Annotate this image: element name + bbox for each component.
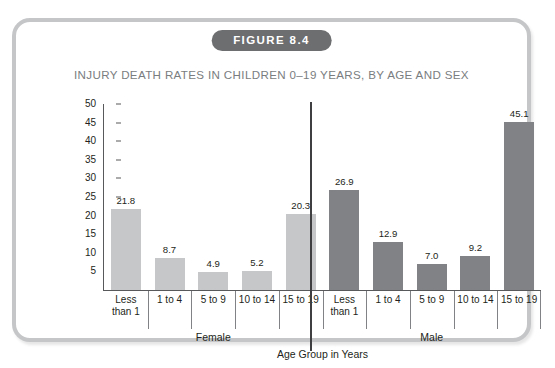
y-tick-label: 15: [70, 229, 96, 239]
bar[interactable]: [504, 122, 534, 290]
bar-value-label: 21.8: [117, 195, 136, 206]
bar-slot: 20.3: [279, 104, 323, 290]
y-tick-label: 25: [70, 192, 96, 202]
bar[interactable]: [155, 258, 185, 290]
category-divider: [497, 291, 498, 329]
bar-slot: 26.9: [323, 104, 367, 290]
category-divider: [454, 291, 455, 329]
group-label-female: Female: [104, 331, 323, 343]
category-label: Lessthan 1: [104, 291, 148, 329]
y-tick-label: 20: [70, 211, 96, 221]
bar[interactable]: [460, 256, 490, 290]
bar-value-label: 12.9: [379, 228, 398, 239]
category-label: 5 to 9: [410, 291, 454, 329]
y-tick-label: 50: [70, 99, 96, 109]
y-tick-label: 45: [70, 118, 96, 128]
category-divider: [191, 291, 192, 329]
bar-value-label: 9.2: [469, 242, 482, 253]
category-label: 15 to 19: [279, 291, 323, 329]
y-tick-label: 35: [70, 155, 96, 165]
bar-value-label: 7.0: [425, 250, 438, 261]
category-label: 15 to 19: [497, 291, 541, 329]
chart-title: INJURY DEATH RATES IN CHILDREN 0–19 YEAR…: [16, 68, 527, 81]
bar-slot: 8.7: [148, 104, 192, 290]
bar[interactable]: [373, 242, 403, 290]
category-label: 10 to 14: [454, 291, 498, 329]
group-label-row: FemaleMale: [104, 329, 541, 349]
figure-number-badge: FIGURE 8.4: [211, 30, 332, 51]
figure-card: FIGURE 8.4 INJURY DEATH RATES IN CHILDRE…: [12, 18, 531, 342]
group-label-male: Male: [323, 331, 542, 343]
y-tick-label: 5: [70, 266, 96, 276]
bar-slot: 7.0: [410, 104, 454, 290]
bar[interactable]: [242, 271, 272, 290]
bar-value-label: 26.9: [335, 176, 354, 187]
bar-slot: 12.9: [366, 104, 410, 290]
category-label: 1 to 4: [366, 291, 410, 329]
category-label: Lessthan 1: [323, 291, 367, 329]
category-divider: [279, 291, 280, 329]
bar-slot: 9.2: [454, 104, 498, 290]
bar-value-label: 8.7: [163, 244, 176, 255]
category-label: 5 to 9: [191, 291, 235, 329]
category-divider: [235, 291, 236, 329]
category-label: 1 to 4: [148, 291, 192, 329]
y-axis-tick-labels: 5045403530252015105: [70, 104, 96, 290]
bar[interactable]: [329, 190, 359, 290]
bar-slot: 5.2: [235, 104, 279, 290]
bar-slot: 45.1: [497, 104, 541, 290]
bar-slot: 21.8: [104, 104, 148, 290]
y-tick-label: 10: [70, 248, 96, 258]
sex-group-divider: [310, 102, 312, 351]
bar-value-label: 5.2: [250, 257, 263, 268]
category-divider: [410, 291, 411, 329]
category-divider: [148, 291, 149, 329]
bar-value-label: 45.1: [510, 108, 529, 119]
category-divider: [366, 291, 367, 329]
y-tick-label: 30: [70, 173, 96, 183]
category-label: 10 to 14: [235, 291, 279, 329]
category-divider: [323, 291, 324, 329]
bar[interactable]: [417, 264, 447, 290]
bar-value-label: 20.3: [291, 200, 310, 211]
bar[interactable]: [111, 209, 141, 290]
x-axis-title: Age Group in Years: [104, 348, 541, 360]
y-tick-label: 40: [70, 136, 96, 146]
category-label-row: Lessthan 11 to 45 to 910 to 1415 to 19Le…: [104, 291, 541, 329]
bar[interactable]: [198, 272, 228, 290]
bars-container: 21.88.74.95.220.326.912.97.09.245.1: [104, 104, 541, 290]
bar-slot: 4.9: [191, 104, 235, 290]
bar-value-label: 4.9: [207, 258, 220, 269]
chart-plot-area: Death Rate Per 100,000 Population 504540…: [52, 104, 542, 351]
category-divider: [540, 291, 541, 329]
